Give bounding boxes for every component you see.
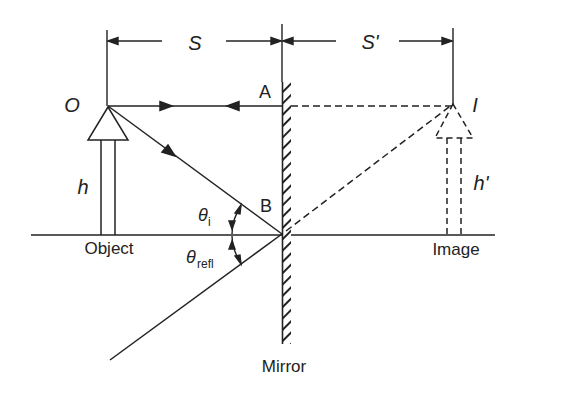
- virtual-rays: [286, 104, 453, 231]
- label-point-a: A: [259, 82, 271, 102]
- svg-text:refl: refl: [197, 257, 214, 271]
- svg-text:i: i: [208, 215, 211, 229]
- label-point-b: B: [260, 196, 272, 216]
- ray-incident: [108, 106, 282, 234]
- label-image-height: h': [474, 172, 490, 194]
- label-object-point: O: [64, 94, 80, 116]
- label-theta-reflected: θ refl: [186, 247, 214, 271]
- dimension-lines: [107, 24, 453, 106]
- label-object: Object: [84, 239, 133, 258]
- label-image-point: I: [472, 94, 478, 116]
- label-image-distance: S': [361, 31, 379, 53]
- label-object-height: h: [77, 176, 88, 198]
- svg-text:θ: θ: [186, 247, 196, 267]
- ray-normal: [108, 102, 282, 111]
- label-object-distance: S: [188, 32, 202, 54]
- mirror: [283, 82, 292, 344]
- image-arrow: [435, 104, 473, 235]
- label-mirror: Mirror: [262, 357, 307, 376]
- svg-text:θ: θ: [198, 205, 208, 225]
- object-arrow: [88, 107, 128, 235]
- label-image: Image: [432, 240, 479, 259]
- ray-reflected: [110, 234, 282, 360]
- mirror-diagram: S S' Mirror O h Object I h' Image A: [0, 0, 573, 394]
- label-theta-incident: θ i: [198, 205, 211, 229]
